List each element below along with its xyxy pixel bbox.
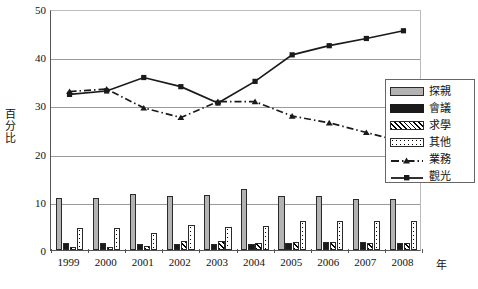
y-tick-label: 30	[18, 101, 46, 112]
marker-觀光	[104, 88, 109, 93]
x-tick-label: 2005	[280, 256, 302, 269]
x-tickmark	[274, 249, 275, 253]
x-tick-label: 2000	[95, 256, 117, 269]
line-dashdot-triangle-icon	[390, 155, 424, 164]
swatch-gray-icon	[390, 87, 424, 96]
x-tick-label: 2003	[206, 256, 228, 269]
marker-觀光	[290, 52, 295, 57]
legend-label: 探親	[429, 85, 451, 97]
chart-legend: 探親會議求學其他業務觀光	[385, 79, 475, 183]
x-axis-labels: 1999200020012002200320042005200620072008	[50, 256, 421, 274]
y-tick-label: 50	[18, 5, 46, 16]
y-tick-label: 40	[18, 53, 46, 64]
marker-觀光	[141, 75, 146, 80]
x-tickmark	[199, 249, 200, 253]
legend-item-會議[interactable]: 會議	[390, 100, 472, 116]
x-tickmark	[125, 249, 126, 253]
x-tickmark	[422, 249, 423, 253]
x-axis-title: 年	[436, 256, 447, 272]
legend-item-其他[interactable]: 其他	[390, 134, 472, 150]
marker-觀光	[178, 84, 183, 89]
legend-item-求學[interactable]: 求學	[390, 117, 472, 133]
x-tickmark	[311, 249, 312, 253]
marker-觀光	[67, 92, 72, 97]
y-axis-title-char-1: 百	[2, 108, 18, 120]
y-axis-ticks: 01020304050	[18, 0, 46, 289]
legend-label: 業務	[429, 153, 451, 165]
x-tickmark	[385, 249, 386, 253]
x-tickmark	[348, 249, 349, 253]
legend-label: 會議	[429, 102, 451, 114]
legend-label: 觀光	[429, 170, 451, 182]
marker-業務	[326, 120, 333, 126]
y-tick-label: 20	[18, 150, 46, 161]
legend-label: 求學	[429, 119, 451, 131]
x-tick-label: 2002	[169, 256, 191, 269]
x-tick-label: 1999	[58, 256, 80, 269]
x-tickmark	[51, 249, 52, 253]
swatch-dotted-icon	[390, 138, 424, 147]
x-tickmark	[88, 249, 89, 253]
legend-item-探親[interactable]: 探親	[390, 83, 472, 99]
x-tickmark	[237, 249, 238, 253]
line-業務	[70, 89, 404, 142]
x-tick-label: 2006	[317, 256, 339, 269]
swatch-hatched-icon	[390, 121, 424, 130]
marker-觀光	[327, 43, 332, 48]
swatch-black-icon	[390, 104, 424, 113]
y-axis-title-char-3: 比	[2, 132, 18, 144]
plot-area	[50, 10, 421, 251]
x-tick-label: 2001	[132, 256, 154, 269]
y-axis-title: 百 分 比	[2, 108, 18, 144]
marker-業務	[140, 105, 147, 111]
x-tick-label: 2004	[243, 256, 265, 269]
x-tick-label: 2007	[354, 256, 376, 269]
y-tick-label: 10	[18, 198, 46, 209]
y-axis-title-char-2: 分	[2, 120, 18, 132]
marker-觀光	[252, 79, 257, 84]
line-series-layer	[51, 11, 422, 252]
chart-container: 百 分 比 01020304050 1999200020012002200320…	[0, 0, 478, 289]
x-tickmark	[162, 249, 163, 253]
legend-item-觀光[interactable]: 觀光	[390, 168, 472, 184]
legend-item-業務[interactable]: 業務	[390, 151, 472, 167]
marker-觀光	[364, 36, 369, 41]
y-tick-label: 0	[18, 246, 46, 257]
marker-觀光	[215, 100, 220, 105]
marker-觀光	[401, 28, 406, 33]
line-solid-square-icon	[390, 172, 424, 181]
line-觀光	[70, 31, 404, 103]
x-tick-label: 2008	[391, 256, 413, 269]
legend-label: 其他	[429, 136, 451, 148]
